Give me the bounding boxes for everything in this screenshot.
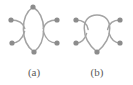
panel-a-edge-left-bow <box>23 7 34 52</box>
panel-b: (b) <box>73 15 122 79</box>
panel-a-pendant-lower-left <box>9 40 14 45</box>
figure-container: (a) (b) <box>0 0 133 85</box>
panel-a-bottom-vertex <box>31 49 36 54</box>
panel-a-top-vertex <box>30 4 35 9</box>
panel-a-stub-lower-right <box>43 32 57 44</box>
panel-b-pendant-lower-left <box>73 40 78 45</box>
panel-b-pendant-lower-right <box>117 40 122 45</box>
panel-b-caption: (b) <box>91 66 104 79</box>
panel-b-edge-self-loop <box>84 15 110 52</box>
graph-figure-svg: (a) (b) <box>0 0 133 85</box>
panel-b-pendant-upper-left <box>73 17 78 22</box>
panel-a-pendant-upper-right <box>54 17 59 22</box>
panel-a-pendant-upper-left <box>8 17 13 22</box>
panel-b-bottom-vertex <box>94 49 99 54</box>
panel-a: (a) <box>8 4 59 79</box>
panel-a-edge-right-bow <box>33 7 44 52</box>
panel-a-caption: (a) <box>28 66 41 79</box>
panel-a-pendant-lower-right <box>54 40 59 45</box>
panel-b-pendant-upper-right <box>117 17 122 22</box>
